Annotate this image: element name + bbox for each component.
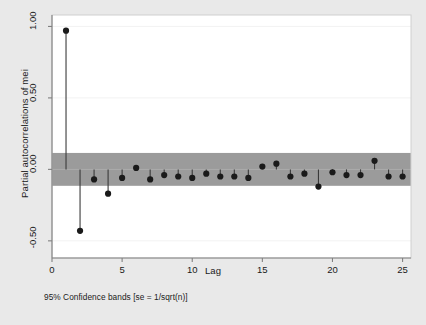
data-point-lag-6 xyxy=(133,165,139,171)
data-point-lag-13 xyxy=(231,173,237,179)
data-point-lag-4 xyxy=(105,191,111,197)
data-point-lag-8 xyxy=(161,172,167,178)
data-point-lag-12 xyxy=(217,173,223,179)
data-point-lag-14 xyxy=(245,175,251,181)
chart-canvas xyxy=(0,0,426,325)
data-point-lag-5 xyxy=(119,175,125,181)
x-tick-label-0: 0 xyxy=(32,264,72,275)
x-tick-label-1: 5 xyxy=(102,264,142,275)
data-point-lag-3 xyxy=(91,176,97,182)
x-tick-label-3: 15 xyxy=(242,264,282,275)
confidence-band-note: 95% Confidence bands [se = 1/sqrt(n)] xyxy=(44,292,188,302)
data-point-lag-20 xyxy=(329,169,335,175)
data-point-lag-18 xyxy=(301,171,307,177)
data-point-lag-11 xyxy=(203,171,209,177)
x-tick-label-5: 25 xyxy=(383,264,423,275)
data-point-lag-17 xyxy=(287,173,293,179)
data-point-lag-23 xyxy=(371,158,377,164)
data-point-lag-15 xyxy=(259,163,265,169)
data-point-lag-9 xyxy=(175,173,181,179)
plot-area xyxy=(52,15,411,258)
pacf-chart: Partial autocorrelations of mei Lag 95% … xyxy=(0,0,426,325)
data-point-lag-7 xyxy=(147,176,153,182)
data-point-lag-16 xyxy=(273,161,279,167)
y-tick-label-3: -0.50 xyxy=(27,226,38,254)
y-axis-title: Partial autocorrelations of mei xyxy=(19,24,30,244)
data-point-lag-21 xyxy=(343,172,349,178)
y-tick-label-2: 0.00 xyxy=(27,155,38,183)
data-point-lag-25 xyxy=(399,173,405,179)
data-point-lag-19 xyxy=(315,183,321,189)
data-point-lag-22 xyxy=(357,172,363,178)
y-tick-label-1: 0.50 xyxy=(27,83,38,111)
x-tick-label-2: 10 xyxy=(172,264,212,275)
data-point-lag-10 xyxy=(189,175,195,181)
data-point-lag-24 xyxy=(385,173,391,179)
data-point-lag-1 xyxy=(63,28,69,34)
x-tick-label-4: 20 xyxy=(312,264,352,275)
y-tick-label-0: 1.00 xyxy=(27,12,38,40)
data-point-lag-2 xyxy=(77,228,83,234)
